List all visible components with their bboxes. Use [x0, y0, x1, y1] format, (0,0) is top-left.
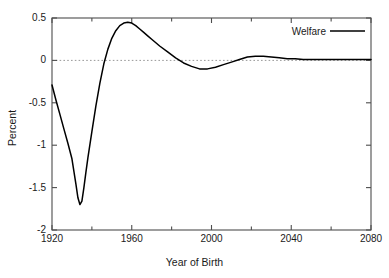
- y-axis-ticks: [52, 18, 371, 230]
- y-tick-label-0: 0.5: [10, 13, 46, 23]
- plot-frame: [52, 18, 371, 230]
- x-tick-label-3: 2040: [271, 234, 311, 244]
- x-axis-ticks: [52, 18, 371, 230]
- y-tick-label-1: 0: [10, 55, 46, 65]
- y-tick-label-4: -1.5: [10, 183, 46, 193]
- welfare-line-chart: 0.5 0 -0.5 -1 -1.5 -2 1920 1960 2000 204…: [0, 0, 389, 278]
- x-tick-label-0: 1920: [32, 234, 72, 244]
- x-tick-label-1: 1960: [112, 234, 152, 244]
- x-tick-label-2: 2000: [192, 234, 232, 244]
- legend-label-welfare: Welfare: [262, 26, 326, 37]
- x-tick-label-4: 2080: [351, 234, 389, 244]
- y-axis-title: Percent: [6, 98, 18, 158]
- x-axis-title: Year of Birth: [0, 256, 389, 268]
- series-line-welfare: [52, 22, 371, 204]
